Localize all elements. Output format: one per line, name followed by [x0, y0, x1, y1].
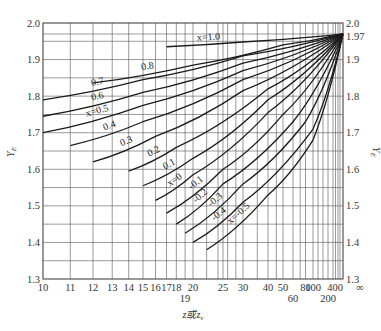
- grid: [43, 23, 343, 279]
- x-tick-label: 11: [65, 282, 75, 293]
- x-tick-label: 14: [123, 282, 134, 293]
- x-tick-label: 16: [150, 282, 161, 293]
- y-tick-label-right: 1.5: [346, 200, 359, 211]
- x-tick-label: 30: [238, 282, 249, 293]
- x-tick-label: 18: [171, 282, 182, 293]
- y-tick-label-left: 2.0: [27, 18, 40, 29]
- x-tick-label: 200: [320, 293, 336, 304]
- x-tick-label: 40: [263, 282, 274, 293]
- x-axis-ticks: 1011121314151617181920253040506080100200…: [38, 282, 364, 304]
- x-tick-label: 400: [327, 282, 343, 293]
- x-tick-label: 60: [288, 293, 299, 304]
- curve-label: x=0: [165, 170, 184, 188]
- y-tick-label-right: 1.6: [346, 164, 359, 175]
- x-tick-label: 50: [278, 282, 289, 293]
- x-tick-label: 15: [138, 282, 149, 293]
- y-tick-label-left: 1.5: [27, 200, 40, 211]
- y-tick-label-left: 1.4: [27, 237, 41, 248]
- y-tick-label-left: 1.9: [27, 54, 40, 65]
- y-axis-title-right: YE: [369, 147, 381, 158]
- y-tick-label-right: 1.97: [346, 31, 364, 42]
- y-axis-left-ticks: 1.31.41.51.61.71.81.92.0: [27, 18, 41, 285]
- y-tick-label-left: 1.6: [27, 164, 40, 175]
- curve-label: x=1.0: [196, 30, 220, 42]
- y-tick-label-right: 1.4: [346, 237, 360, 248]
- y-tick-label-left: 1.3: [27, 274, 40, 285]
- x-tick-label: 12: [88, 282, 99, 293]
- y-tick-label-right: 1.3: [346, 274, 359, 285]
- curve-label: 0.8: [140, 59, 154, 72]
- x-tick-label: 100: [305, 282, 321, 293]
- x-tick-label: 25: [218, 282, 229, 293]
- x-axis-title: z或zv: [182, 309, 205, 322]
- y-tick-label-left: 1.8: [27, 91, 40, 102]
- y-tick-label-right: 1.8: [346, 91, 359, 102]
- curve-label: 0.3: [118, 133, 134, 148]
- y-axis-right-ticks: 1.31.41.51.61.71.81.91.972.0: [346, 18, 364, 285]
- y-tick-label-right: 1.7: [346, 127, 359, 138]
- curve-label: 0.4: [102, 118, 117, 132]
- y-tick-label-right: 1.9: [346, 54, 359, 65]
- curve-label: 0.7: [90, 75, 104, 88]
- y-tick-label-right: 2.0: [346, 18, 359, 29]
- curve-label: 0.6: [90, 89, 105, 103]
- y-axis-title-left: YE: [5, 146, 18, 157]
- curve-label: x=0.5: [84, 102, 109, 119]
- curve-label: x=-0.5: [225, 200, 252, 226]
- x-tick-label: 20: [188, 282, 199, 293]
- chart: x=1.00.80.70.6x=0.50.40.30.20.1x=0-0.1-0…: [0, 0, 381, 331]
- x-tick-label: 13: [107, 282, 118, 293]
- curve-label: 0.2: [145, 143, 161, 158]
- y-tick-label-left: 1.7: [27, 127, 40, 138]
- x-tick-label: 19: [180, 293, 191, 304]
